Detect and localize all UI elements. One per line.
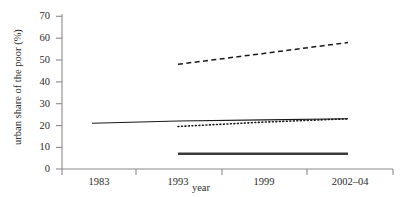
data-series-group [92,43,348,154]
y-tick-label-40: 40 [24,77,50,88]
y-tick-label-50: 50 [24,55,50,66]
y-tick-label-70: 70 [24,11,50,22]
series-solid-thin-line [92,119,348,123]
series-dashed-upper-line [178,43,348,65]
x-tick-label-1993: 1993 [138,177,218,188]
y-tick-label-20: 20 [24,121,50,132]
y-tick-label-0: 0 [24,164,50,175]
x-axis-ticks [62,169,393,175]
x-tick-label-2002-04: 2002–04 [310,177,390,188]
chart-plot-area [0,0,402,197]
y-tick-label-30: 30 [24,99,50,110]
x-tick-label-1983: 1983 [59,177,139,188]
y-axis-title: urban share of the poor (%) [13,9,24,165]
x-tick-label-1999: 1999 [224,177,304,188]
y-axis-ticks [56,16,62,169]
axis-lines [62,14,393,169]
y-tick-label-10: 10 [24,142,50,153]
chart-figure: urban share of the poor (%) year 70 60 5… [0,0,402,197]
y-tick-label-60: 60 [24,33,50,44]
